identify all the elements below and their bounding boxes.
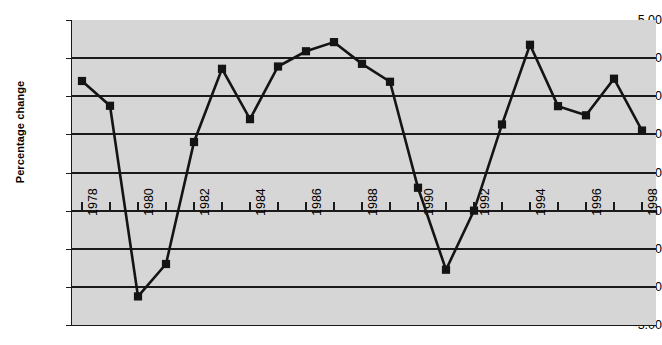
plot-area: 1978198019821984198619881990199219941996…: [72, 20, 656, 325]
data-point-marker: [218, 65, 226, 73]
chart-figure: Percentage change 5.004.003.002.001.000.…: [0, 0, 662, 345]
series-line: [82, 42, 642, 296]
data-point-marker: [358, 60, 366, 68]
data-point-marker: [554, 102, 562, 110]
data-point-marker: [190, 138, 198, 146]
data-point-marker: [78, 77, 86, 85]
data-point-marker: [414, 184, 422, 192]
data-point-marker: [582, 111, 590, 119]
data-point-marker: [526, 41, 534, 49]
data-point-marker: [106, 102, 114, 110]
data-series-percentage-change: [72, 20, 656, 325]
data-point-marker: [470, 207, 478, 215]
data-point-marker: [610, 75, 618, 83]
y-axis-title: Percentage change: [14, 72, 26, 192]
data-point-marker: [162, 260, 170, 268]
data-point-marker: [386, 78, 394, 86]
data-point-marker: [442, 266, 450, 274]
data-point-marker: [302, 47, 310, 55]
data-point-marker: [330, 38, 338, 46]
data-point-marker: [134, 292, 142, 300]
data-point-marker: [246, 115, 254, 123]
data-point-marker: [498, 120, 506, 128]
series-markers: [78, 38, 646, 301]
data-point-marker: [274, 62, 282, 70]
data-point-marker: [638, 126, 646, 134]
